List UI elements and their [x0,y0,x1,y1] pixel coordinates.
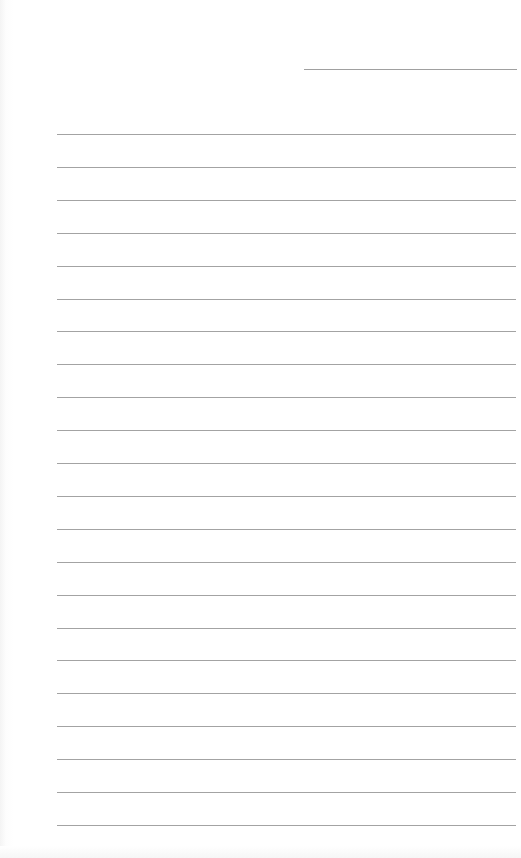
ruled-line [57,660,516,661]
ruled-line [57,299,516,300]
ruled-line [57,200,516,201]
ruled-line [57,233,516,234]
page-bottom-edge [0,846,521,858]
ruled-line [57,825,516,826]
ruled-line [57,628,516,629]
ruled-line [57,430,516,431]
ruled-line [57,792,516,793]
ruled-line [57,331,516,332]
ruled-line [57,529,516,530]
header-name-line [304,69,517,70]
lined-paper-page [0,0,521,858]
ruled-line [57,726,516,727]
ruled-line [57,167,516,168]
ruled-line [57,595,516,596]
ruled-line [57,759,516,760]
ruled-line [57,364,516,365]
ruled-line [57,134,516,135]
ruled-line [57,266,516,267]
ruled-line [57,562,516,563]
ruled-line [57,693,516,694]
ruled-line [57,496,516,497]
ruled-line [57,397,516,398]
ruled-line [57,463,516,464]
